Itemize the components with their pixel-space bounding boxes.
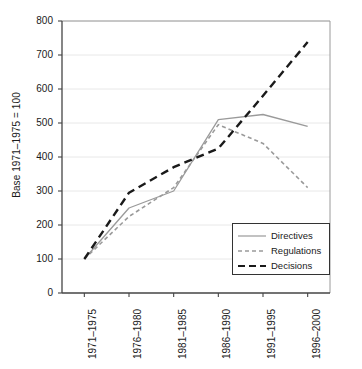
legend-item-directives: Directives [237, 228, 325, 243]
x-tick-label: 1971–1975 [88, 309, 98, 359]
y-tick-label: 300 [23, 186, 53, 196]
legend-swatch-regulations [237, 246, 267, 256]
y-tick-label: 600 [23, 84, 53, 94]
legend-swatch-decisions [237, 261, 267, 271]
legend-swatch-directives [237, 231, 267, 241]
legend: Directives Regulations Decisions [232, 223, 330, 275]
y-tick-label: 0 [23, 288, 53, 298]
x-tick-label: 1991–1995 [267, 309, 277, 359]
legend-item-decisions: Decisions [237, 258, 325, 273]
x-tick-label: 1996–2000 [312, 309, 322, 359]
y-tick-label: 200 [23, 220, 53, 230]
legend-label-decisions: Decisions [267, 261, 312, 271]
line-chart: Base 1971–1975 = 100 8007006005004003002… [0, 0, 362, 369]
y-tick-label: 500 [23, 118, 53, 128]
x-tick-label: 1986–1990 [222, 309, 232, 359]
y-tick-label: 700 [23, 50, 53, 60]
y-tick-label: 400 [23, 152, 53, 162]
legend-label-regulations: Regulations [267, 246, 321, 256]
legend-label-directives: Directives [267, 231, 313, 241]
legend-item-regulations: Regulations [237, 243, 325, 258]
y-tick-label: 100 [23, 254, 53, 264]
x-tick-label: 1976–1980 [133, 309, 143, 359]
x-tick-label: 1981–1985 [178, 309, 188, 359]
y-tick-label: 800 [23, 16, 53, 26]
